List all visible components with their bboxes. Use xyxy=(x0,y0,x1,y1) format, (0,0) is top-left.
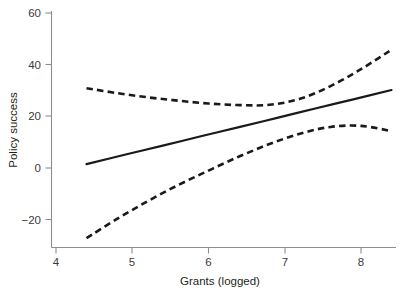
y-axis-tick-labels: 60 40 20 0 −20 xyxy=(21,7,41,226)
x-tick-label-4: 4 xyxy=(53,256,60,268)
x-tick-label-6: 6 xyxy=(205,256,211,268)
lower-confidence-bound-curve xyxy=(87,126,392,239)
x-tick-label-5: 5 xyxy=(129,256,135,268)
y-tick-label-20: 20 xyxy=(28,110,41,122)
y-axis-title: Policy success xyxy=(7,92,19,168)
policy-success-vs-grants-chart: 60 40 20 0 −20 4 5 6 7 8 Grants (logged)… xyxy=(0,0,403,291)
y-tick-label-40: 40 xyxy=(28,59,41,71)
chart-figure: 60 40 20 0 −20 4 5 6 7 8 Grants (logged)… xyxy=(0,0,403,291)
data-curves xyxy=(87,50,392,239)
upper-confidence-bound-curve xyxy=(87,50,392,106)
y-axis-ticks xyxy=(46,13,52,220)
x-tick-label-7: 7 xyxy=(282,256,288,268)
axis-lines xyxy=(52,11,397,248)
y-tick-label-0: 0 xyxy=(35,162,41,174)
x-axis-tick-labels: 4 5 6 7 8 xyxy=(53,256,364,268)
y-tick-label-60: 60 xyxy=(28,7,41,19)
y-tick-label-minus-20: −20 xyxy=(21,214,41,226)
predicted-fit-line xyxy=(87,90,392,164)
x-axis-title: Grants (logged) xyxy=(180,275,260,287)
x-axis-ticks xyxy=(56,248,361,254)
x-tick-label-8: 8 xyxy=(358,256,364,268)
